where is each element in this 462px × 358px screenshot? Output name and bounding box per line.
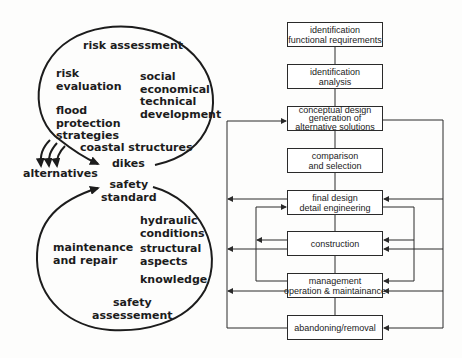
text-line: hydraulic: [140, 215, 205, 228]
box-text: identification: [310, 67, 360, 77]
label-dikes: dikes: [112, 158, 145, 171]
box-abandoning-removal: abandoning/removal: [287, 315, 383, 340]
box-text: operation & maintainance: [284, 286, 386, 296]
label-alternatives: alternatives: [23, 168, 98, 181]
box-text: comparison: [312, 151, 359, 161]
box-text: alternative solutions: [295, 123, 375, 132]
label-structural-aspects: structural aspects: [140, 243, 201, 268]
label-coastal-structures: coastal structures: [80, 142, 192, 155]
label-risk-assessment: risk assessment: [83, 40, 183, 53]
box-identification-requirements: identification functional requirements: [287, 22, 383, 47]
text-line: aspects: [140, 256, 201, 269]
label-maintenance-repair: maintenance and repair: [53, 242, 133, 267]
box-text: identification: [310, 25, 360, 35]
box-text: construction: [311, 239, 360, 249]
box-conceptual-design: conceptual design generation of alternat…: [287, 106, 383, 131]
text-line: risk: [56, 68, 122, 81]
box-construction: construction: [287, 231, 383, 256]
text-line: social: [140, 71, 221, 84]
text-line: safety: [92, 297, 173, 310]
label-knowledge: knowledge: [140, 274, 207, 287]
text-line: technical: [140, 96, 221, 109]
box-text: final design: [312, 193, 358, 203]
text-line: flood: [56, 105, 121, 118]
text-line: and repair: [53, 255, 133, 268]
text-line: development: [140, 109, 221, 122]
box-management: management operation & maintainance: [287, 273, 383, 298]
box-text: analysis: [319, 77, 352, 87]
box-text: abandoning/removal: [294, 323, 376, 333]
label-risk-evaluation: risk evaluation: [56, 68, 122, 93]
diagram-canvas: risk assessment risk evaluation social e…: [0, 0, 462, 358]
text-line: evaluation: [56, 81, 122, 94]
text-line: conditions: [140, 228, 205, 241]
text-line: maintenance: [53, 242, 133, 255]
text-line: structural: [140, 243, 201, 256]
box-text: and selection: [308, 161, 361, 171]
label-safety-assessment: safety assessement: [92, 297, 173, 322]
text-line: safety: [101, 179, 157, 192]
box-identification-analysis: identification analysis: [287, 64, 383, 89]
box-text: functional requirements: [288, 35, 382, 45]
label-hydraulic-conditions: hydraulic conditions: [140, 215, 205, 240]
box-final-design: final design detail engineering: [287, 190, 383, 215]
box-text: detail engineering: [299, 203, 370, 213]
text-line: standard: [101, 192, 157, 205]
box-text: management: [309, 276, 362, 286]
label-social-development: social economical technical development: [140, 71, 221, 121]
box-comparison-selection: comparison and selection: [287, 148, 383, 173]
label-safety-standard: safety standard: [101, 179, 157, 204]
label-flood-protection: flood protection strategies: [56, 105, 121, 143]
text-line: assessement: [92, 310, 173, 323]
